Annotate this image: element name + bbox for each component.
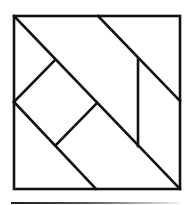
bottom-underline-bar [11, 202, 180, 204]
tangram-square-diagram [0, 0, 192, 205]
